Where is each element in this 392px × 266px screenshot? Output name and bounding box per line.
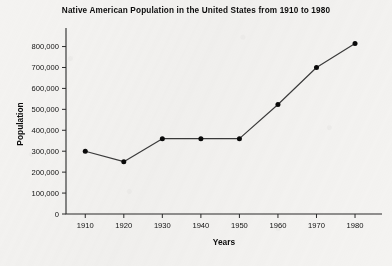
y-axis-tick-labels: 0100,000200,000300,000400,000500,000600,… [32, 42, 59, 218]
plot-area: 0100,000200,000300,000400,000500,000600,… [0, 0, 392, 266]
svg-text:0: 0 [55, 210, 59, 219]
svg-text:200,000: 200,000 [32, 168, 59, 177]
y-axis-title: Population [15, 102, 25, 145]
population-line-chart: Native American Population in the United… [0, 0, 392, 266]
svg-text:100,000: 100,000 [32, 189, 59, 198]
svg-text:300,000: 300,000 [32, 147, 59, 156]
svg-text:1970: 1970 [308, 221, 325, 230]
svg-text:400,000: 400,000 [32, 126, 59, 135]
x-axis-title: Years [213, 237, 236, 247]
svg-text:600,000: 600,000 [32, 84, 59, 93]
svg-text:1980: 1980 [347, 221, 364, 230]
svg-text:700,000: 700,000 [32, 63, 59, 72]
svg-text:1920: 1920 [115, 221, 132, 230]
svg-text:1940: 1940 [192, 221, 209, 230]
svg-text:1910: 1910 [77, 221, 94, 230]
svg-text:800,000: 800,000 [32, 42, 59, 51]
x-axis-tick-labels: 19101920193019401950196019701980 [77, 221, 364, 230]
svg-text:1950: 1950 [231, 221, 248, 230]
data-series-markers [83, 41, 358, 164]
svg-text:1930: 1930 [154, 221, 171, 230]
svg-text:500,000: 500,000 [32, 105, 59, 114]
svg-text:1960: 1960 [269, 221, 286, 230]
data-series-line [85, 43, 355, 161]
